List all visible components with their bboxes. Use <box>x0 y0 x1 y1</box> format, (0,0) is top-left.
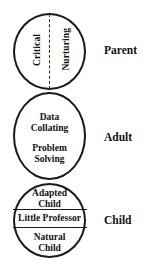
parent-compartment-nurturing-label: Nurturing <box>62 28 72 71</box>
child-natural-line1: Natural <box>13 232 86 243</box>
child-adapted-line1: Adapted <box>13 188 86 199</box>
adult-data-collating-line1: Data <box>13 112 86 123</box>
child-adapted-line2: Child <box>13 199 86 210</box>
pac-ego-state-diagram: Critical Nurturing Parent Data Collating… <box>0 0 157 280</box>
adult-data-collating-line2: Collating <box>13 123 86 134</box>
child-compartment-little-professor: Little Professor <box>13 213 86 224</box>
child-divider-lower <box>13 227 87 228</box>
child-little-professor-line1: Little Professor <box>13 213 86 224</box>
adult-side-label: Adult <box>104 131 132 143</box>
child-natural-line2: Child <box>13 243 86 254</box>
parent-compartment-critical-label: Critical <box>33 34 43 66</box>
adult-compartment-data-collating: Data Collating <box>13 112 86 134</box>
adult-problem-solving-line1: Problem <box>13 143 86 154</box>
child-side-label: Child <box>104 214 132 226</box>
child-compartment-natural-child: Natural Child <box>13 232 86 253</box>
parent-side-label: Parent <box>104 44 137 56</box>
adult-functions-text: Data Collating Problem Solving <box>13 112 86 165</box>
child-compartment-adapted-child: Adapted Child <box>13 188 86 209</box>
adult-compartment-problem-solving: Problem Solving <box>13 143 86 165</box>
adult-problem-solving-line2: Solving <box>13 154 86 165</box>
parent-vertical-dashed-divider <box>49 14 50 89</box>
